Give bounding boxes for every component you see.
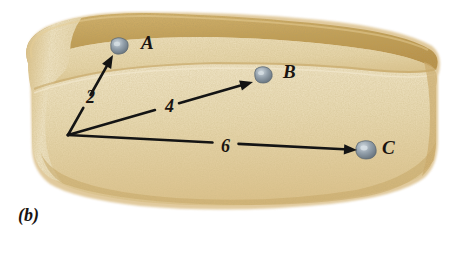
raisin-C [356,141,376,159]
distance-label-2: 2 [86,88,95,106]
raisin-A [111,38,129,54]
bread-loaf [26,12,440,210]
point-label-b: B [283,62,296,81]
raisin-B [255,67,272,83]
figure-panel: ABC246 (b) [0,0,463,254]
distance-label-4: 4 [165,97,174,115]
point-label-a: A [141,33,154,52]
arrow-origin-point [66,133,69,136]
distance-label-6: 6 [221,137,230,155]
bread-illustration [0,0,463,254]
point-label-c: C [382,138,395,157]
figure-caption: (b) [18,206,39,224]
